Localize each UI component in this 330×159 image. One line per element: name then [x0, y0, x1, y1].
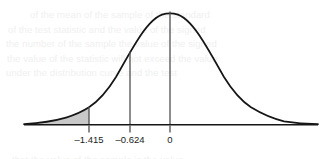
tick-label-zero: 0	[167, 134, 172, 145]
tick-label-neg1415: –1.415	[74, 134, 103, 145]
bell-curve	[24, 13, 318, 124]
tick-label-neg0624: –0.624	[115, 134, 144, 145]
normal-distribution-chart: –1.415 –0.624 0	[0, 0, 330, 159]
shaded-tail-region	[24, 107, 89, 124]
